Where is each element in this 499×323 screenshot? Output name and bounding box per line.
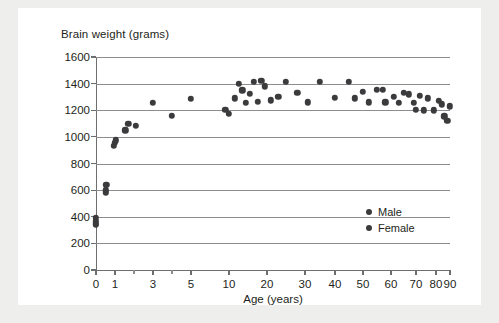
x-tick-mark <box>266 270 267 275</box>
y-tick-mark <box>91 110 96 111</box>
x-tick-label: 30 <box>299 278 312 290</box>
gridline <box>96 164 450 165</box>
y-axis-title: Brain weight (grams) <box>61 28 169 40</box>
legend-marker-icon <box>366 225 372 231</box>
y-tick-mark <box>91 56 96 57</box>
x-tick-mark <box>435 270 436 275</box>
scatter-point <box>447 103 453 109</box>
y-tick-label: 200 <box>71 237 90 249</box>
y-tick-label: 1600 <box>64 51 90 63</box>
chart-card: Brain weight (grams) 0200400600800100012… <box>18 8 481 305</box>
figure-container: Brain weight (grams) 0200400600800100012… <box>0 0 499 323</box>
x-tick-label: 50 <box>357 278 370 290</box>
x-tick-label: 70 <box>410 278 423 290</box>
gridline <box>96 190 450 191</box>
gridline <box>96 270 450 271</box>
x-tick-mark <box>449 270 450 275</box>
plot-area: 02004006008001000120014001600 0135102030… <box>96 57 450 270</box>
x-minor-tick-mark <box>133 270 134 274</box>
x-tick-mark <box>190 270 191 275</box>
x-tick-mark <box>390 270 391 275</box>
y-tick-label: 1400 <box>64 78 90 90</box>
x-tick-mark <box>228 270 229 275</box>
legend-item: Female <box>366 220 415 236</box>
legend-item: Male <box>366 204 415 220</box>
legend-label: Male <box>378 206 402 218</box>
gridline <box>96 110 450 111</box>
x-tick-mark <box>152 270 153 275</box>
chart-legend: MaleFemale <box>366 204 415 236</box>
legend-label: Female <box>378 222 415 234</box>
gridline <box>96 243 450 244</box>
x-tick-label: 40 <box>329 278 342 290</box>
y-tick-label: 800 <box>71 158 90 170</box>
x-tick-label: 10 <box>223 278 236 290</box>
legend-marker-icon <box>366 209 372 215</box>
x-tick-label: 1 <box>112 278 118 290</box>
y-tick-label: 400 <box>71 211 90 223</box>
gridline <box>96 84 450 85</box>
x-tick-mark <box>114 270 115 275</box>
y-tick-label: 1200 <box>64 104 90 116</box>
x-tick-label: 90 <box>444 278 457 290</box>
x-tick-label: 5 <box>188 278 194 290</box>
x-tick-label: 80 <box>430 278 443 290</box>
x-tick-mark <box>95 270 96 275</box>
y-tick-mark <box>91 83 96 84</box>
x-minor-tick-mark <box>171 270 172 274</box>
gridline <box>96 137 450 138</box>
x-tick-label: 60 <box>385 278 398 290</box>
y-tick-mark <box>91 136 96 137</box>
x-axis-title: Age (years) <box>96 293 450 305</box>
x-tick-mark <box>304 270 305 275</box>
x-tick-mark <box>362 270 363 275</box>
x-tick-label: 20 <box>261 278 274 290</box>
gridline <box>96 57 450 58</box>
y-tick-mark <box>91 243 96 244</box>
x-tick-label: 3 <box>150 278 156 290</box>
x-tick-label: 0 <box>93 278 99 290</box>
x-tick-mark <box>415 270 416 275</box>
x-tick-mark <box>334 270 335 275</box>
y-tick-label: 0 <box>84 264 90 276</box>
y-tick-label: 600 <box>71 184 90 196</box>
y-tick-label: 1000 <box>64 131 90 143</box>
y-tick-mark <box>91 163 96 164</box>
y-tick-mark <box>91 190 96 191</box>
